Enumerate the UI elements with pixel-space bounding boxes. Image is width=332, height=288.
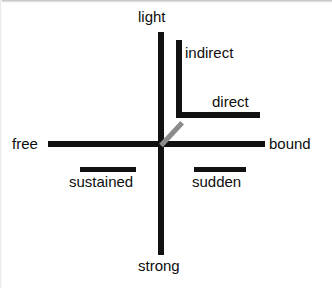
sustained-tick-bar xyxy=(80,167,136,172)
effort-graph-diagram: light indirect direct free bound sustain… xyxy=(0,0,332,288)
label-free: free xyxy=(12,136,38,152)
label-sudden: sudden xyxy=(192,174,241,190)
image-left-edge-artifact xyxy=(0,0,2,288)
horizontal-axis-line xyxy=(48,141,265,147)
label-strong: strong xyxy=(138,258,180,274)
label-light: light xyxy=(138,9,166,25)
label-bound: bound xyxy=(269,136,311,152)
image-top-edge-artifact xyxy=(0,0,332,3)
sudden-tick-bar xyxy=(194,167,246,172)
label-sustained: sustained xyxy=(69,174,133,190)
label-indirect: indirect xyxy=(185,45,233,61)
indirect-axis-line xyxy=(176,40,182,118)
direct-axis-line xyxy=(176,112,260,118)
label-direct: direct xyxy=(212,94,249,110)
